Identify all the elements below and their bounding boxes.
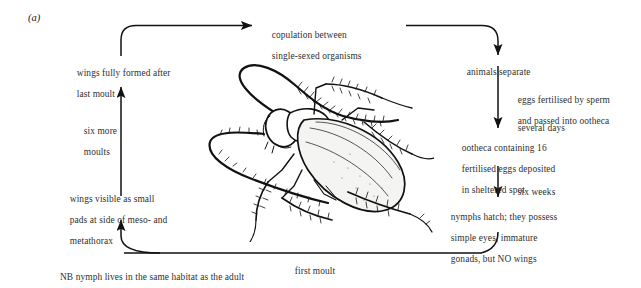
cockroach-illustration (198, 58, 434, 242)
edge-wingsformed-to-copulation (121, 26, 252, 57)
life-cycle-figure: (a) (0, 0, 641, 288)
figure-footnote: NB nymph lives in the same habitat as th… (60, 272, 244, 283)
edge-label-six-weeks: six weeks (508, 176, 555, 208)
edge-label-first-moult: first moult (285, 255, 335, 287)
node-animals-separate: animals separate (457, 56, 531, 88)
edge-label-six-more-moults: six more moults (74, 115, 117, 168)
edge-copulation-to-animals-separate (406, 26, 498, 56)
edge-label-several-days: several days (508, 112, 565, 144)
node-wings-visible: wings visible as small pads at side of m… (60, 183, 167, 257)
node-nymphs-hatch: nymphs hatch; they possess simple eyes, … (441, 201, 557, 275)
node-copulation: copulation between single-sexed organism… (262, 19, 362, 72)
node-wings-fully-formed: wings fully formed after last moult (67, 57, 171, 110)
